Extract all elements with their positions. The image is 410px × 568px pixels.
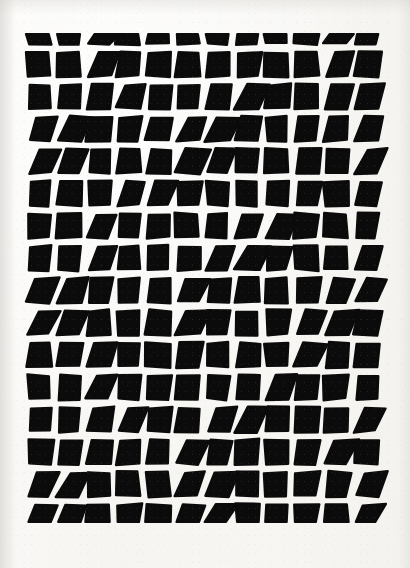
illusion-tile (29, 150, 61, 174)
illusion-tile (29, 245, 52, 271)
illusion-tile (236, 181, 256, 207)
illusion-tile (324, 247, 347, 269)
illusion-tile (146, 149, 171, 174)
illusion-tile (176, 504, 205, 522)
illusion-tile (264, 472, 287, 496)
illusion-tile (207, 310, 230, 334)
illusion-tile (355, 182, 382, 206)
illusion-tile (264, 148, 288, 173)
illusion-tile (175, 52, 201, 77)
illusion-tile (323, 375, 349, 401)
illusion-tile (174, 408, 199, 432)
illusion-tile (206, 246, 235, 271)
illusion-tile (30, 117, 58, 141)
illusion-tile (56, 343, 83, 366)
illusion-tile (235, 215, 263, 239)
illusion-tile (208, 407, 237, 432)
illusion-tile (297, 182, 322, 205)
illusion-tile (145, 342, 171, 367)
illusion-tile (87, 84, 113, 110)
illusion-tile (205, 472, 239, 497)
illusion-tile (85, 375, 117, 399)
illusion-tile (87, 309, 111, 335)
illusion-tile (207, 375, 230, 400)
illusion-tile (57, 277, 89, 303)
illusion-tile (119, 407, 149, 432)
illusion-tile (56, 311, 88, 336)
illusion-tile (236, 472, 258, 497)
illusion-tile (58, 84, 81, 108)
illusion-tile (29, 439, 55, 464)
illusion-tile (118, 375, 141, 400)
illusion-tile (27, 374, 49, 398)
illusion-tile (294, 84, 317, 109)
illusion-tile (235, 439, 260, 465)
illusion-tile (236, 312, 258, 336)
illusion-tile (58, 246, 81, 271)
illusion-tile (354, 408, 386, 433)
illusion-tile (85, 117, 112, 142)
illusion-tile (235, 503, 260, 522)
illusion-tile (353, 310, 382, 335)
illusion-tile (326, 51, 354, 77)
illusion-tile (234, 406, 268, 432)
illusion-tile (266, 181, 289, 206)
illusion-tile (56, 213, 82, 238)
illusion-tile (118, 278, 139, 303)
illusion-tile (355, 246, 383, 270)
illusion-tile (146, 34, 169, 44)
illusion-tile (324, 408, 348, 432)
illusion-tile (266, 116, 287, 142)
illusion-tile (146, 439, 168, 463)
illusion-tile (176, 117, 206, 141)
illusion-tile (117, 503, 142, 522)
illusion-tile (265, 505, 287, 522)
illusion-tile (267, 247, 292, 271)
illusion-tile (174, 213, 198, 238)
illusion-tile (116, 471, 140, 496)
tile-grid-svg (0, 0, 410, 568)
illusion-tile (297, 277, 322, 302)
illusion-tile (88, 52, 120, 77)
illusion-tile (293, 342, 327, 366)
illusion-tile (206, 181, 229, 206)
illusion-tile (206, 34, 229, 45)
illusion-tile (293, 213, 319, 239)
illusion-tile (264, 34, 287, 43)
illusion-tile (59, 375, 81, 401)
illusion-tile (89, 277, 113, 303)
illusion-tile (26, 34, 52, 45)
illusion-tile (119, 214, 141, 238)
illusion-tile (87, 215, 117, 239)
illusion-tile (29, 85, 51, 109)
illusion-tile (207, 440, 232, 465)
illusion-tile (354, 440, 379, 464)
illusion-tile (147, 375, 172, 400)
illusion-tile (236, 342, 260, 367)
illusion-tile (176, 440, 209, 464)
illusion-tile (354, 51, 382, 77)
illusion-tile (30, 408, 52, 431)
illusion-tile (326, 342, 349, 368)
illusion-tile (235, 277, 260, 303)
illusion-tile (294, 245, 319, 271)
illusion-tile (86, 440, 113, 464)
illusion-tile (177, 34, 200, 45)
illusion-tile (326, 149, 349, 173)
illusion-tile (354, 116, 383, 141)
illusion-tile (354, 148, 387, 174)
illusion-tile (356, 213, 379, 239)
illusion-tile (27, 311, 60, 335)
illusion-tile (88, 181, 111, 206)
optical-illusion-artwork: Distorted Squares Optical Illusion (0, 0, 410, 568)
illusion-tile (175, 148, 211, 174)
illusion-tile (85, 505, 109, 522)
illusion-tile (57, 34, 80, 45)
illusion-tile (295, 52, 320, 77)
illusion-tile (265, 277, 288, 303)
illusion-tile (58, 441, 82, 465)
illusion-tile (234, 246, 271, 270)
illusion-tile (206, 52, 230, 77)
illusion-tile (58, 148, 88, 173)
illusion-tile (206, 84, 232, 109)
